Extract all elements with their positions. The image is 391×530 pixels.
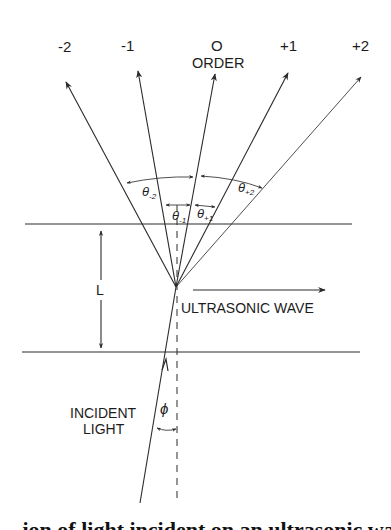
ray-order-minus-1: [138, 71, 176, 287]
thickness-label: L: [96, 282, 104, 298]
ultrasonic-wave-label: ULTRASONIC WAVE: [181, 300, 314, 316]
incidence-angle-label: ϕ: [160, 400, 168, 417]
order-label-minus-1: -1: [121, 37, 134, 54]
incidence-angle-arc: [157, 428, 176, 430]
incident-ray: [140, 287, 176, 503]
incident-light-label-line2: LIGHT: [83, 421, 125, 437]
diffraction-diagram: -2 -1 O ORDER +1 +2 θ-2 θ+2 θ-1 θ+1 L UL…: [0, 0, 391, 530]
order-label-minus-2: -2: [58, 38, 71, 55]
order-label-zero: O: [211, 37, 223, 54]
ray-order-zero: [176, 74, 215, 287]
ray-order-minus-2: [66, 82, 176, 287]
label-theta-minus-1: θ-1: [172, 208, 186, 225]
ray-order-plus-2: [176, 77, 361, 287]
figure-caption-partial: ...ion of light incident on an ultrasoni…: [6, 516, 391, 530]
label-theta-minus-2: θ-2: [142, 184, 157, 201]
angle-arc-theta-minus-2: [127, 177, 193, 183]
incident-light-label-line1: INCIDENT: [70, 405, 137, 421]
order-label-plus-2: +2: [352, 37, 369, 54]
order-caption: ORDER: [192, 55, 244, 71]
order-label-plus-1: +1: [280, 37, 297, 54]
label-theta-plus-1: θ+1: [197, 206, 213, 223]
